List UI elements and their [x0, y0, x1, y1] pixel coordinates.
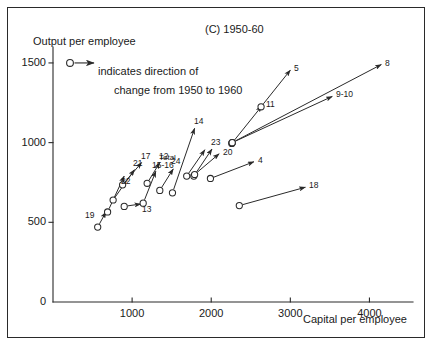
y-axis-title: Output per employee — [33, 36, 136, 47]
y-tick-label-0: 0 — [6, 296, 46, 307]
legend-circle-icon — [67, 60, 74, 67]
arrow-line-4 — [214, 162, 254, 177]
point-label-4: 4 — [258, 156, 263, 165]
legend-line-2: change from 1950 to 1960 — [114, 85, 242, 96]
point-marker-5 — [258, 104, 264, 110]
point-label-18: 18 — [309, 181, 318, 190]
x-tick-label-3000: 3000 — [270, 308, 310, 319]
y-tick-label-1500: 1500 — [6, 57, 46, 68]
data-arrow-13 — [121, 203, 141, 209]
legend-line-1: indicates direction of — [98, 66, 198, 77]
point-label-8: 8 — [385, 59, 390, 68]
data-arrow-20 — [192, 154, 220, 178]
point-marker-13 — [121, 203, 127, 209]
data-arrow-15-16 — [140, 171, 156, 206]
arrow-line-13 — [128, 204, 141, 206]
point-label-13: 13 — [142, 205, 151, 214]
point-marker-24 — [157, 187, 163, 193]
chart-figure: (C) 1950-60 Output per employee Capital … — [0, 0, 434, 347]
point-marker-22 — [104, 209, 110, 215]
point-marker-18 — [236, 202, 242, 208]
arrow-line-Total — [189, 150, 205, 173]
point-label-19: 19 — [85, 211, 94, 220]
data-arrow-19 — [95, 212, 106, 230]
x-tick-label-4000: 4000 — [349, 308, 389, 319]
arrow-line-24 — [162, 169, 173, 187]
data-arrow-18 — [236, 187, 305, 208]
plot-canvas — [0, 0, 434, 347]
point-label-11: 11 — [266, 100, 275, 109]
point-label-9-10: 9-10 — [336, 90, 353, 99]
point-marker-20 — [192, 171, 198, 177]
data-arrow-9-10 — [229, 96, 332, 145]
point-marker-19 — [95, 224, 101, 230]
point-label-5: 5 — [294, 64, 299, 73]
point-label-14: 14 — [194, 117, 203, 126]
point-marker-4 — [207, 175, 213, 181]
arrow-line-9-10 — [236, 96, 333, 141]
point-label-17: 17 — [141, 152, 150, 161]
point-marker-Total — [184, 173, 190, 179]
x-tick-label-1000: 1000 — [112, 308, 152, 319]
point-label-23: 23 — [211, 138, 220, 147]
arrow-line-23 — [196, 149, 212, 173]
data-arrow-4 — [207, 162, 254, 182]
chart-title: (C) 1950-60 — [205, 24, 264, 35]
arrow-line-8 — [235, 65, 381, 141]
point-marker-21 — [110, 197, 116, 203]
point-label-22: 22 — [121, 177, 130, 186]
y-tick-label-1000: 1000 — [6, 137, 46, 148]
point-marker-14 — [169, 190, 175, 196]
y-tick-label-500: 500 — [6, 216, 46, 227]
point-label-20: 20 — [223, 148, 232, 157]
point-marker-8 — [229, 140, 235, 146]
x-tick-label-2000: 2000 — [191, 308, 231, 319]
legend-marker — [67, 60, 94, 67]
point-label-Total: Total — [159, 154, 176, 162]
point-marker-12 — [144, 180, 150, 186]
arrow-line-18 — [243, 187, 305, 204]
